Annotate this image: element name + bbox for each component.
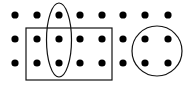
dot-r1-c4 <box>76 11 83 18</box>
dot-r2-c4 <box>76 35 83 42</box>
dot-r1-c6 <box>119 11 126 18</box>
dot-diagram <box>0 0 194 88</box>
dot-r2-c8 <box>164 35 171 42</box>
dot-r3-c5 <box>98 59 105 66</box>
dot-r3-c7 <box>141 59 148 66</box>
dot-r2-c6 <box>119 35 126 42</box>
dot-grid <box>11 11 171 66</box>
dot-r2-c3 <box>55 35 62 42</box>
dot-r3-c6 <box>119 59 126 66</box>
dot-r1-c1 <box>11 11 18 18</box>
dot-r1-c2 <box>33 11 40 18</box>
dot-r3-c8 <box>164 59 171 66</box>
dot-r3-c3 <box>55 59 62 66</box>
dot-r3-c2 <box>33 59 40 66</box>
dot-r2-c7 <box>141 35 148 42</box>
dot-r2-c1 <box>11 35 18 42</box>
circle-right-group <box>132 26 182 76</box>
dot-r1-c8 <box>164 11 171 18</box>
dot-r1-c3 <box>55 11 62 18</box>
dot-r3-c1 <box>11 59 18 66</box>
dot-r1-c5 <box>98 11 105 18</box>
dot-r2-c2 <box>33 35 40 42</box>
dot-r1-c7 <box>141 11 148 18</box>
dot-r2-c5 <box>98 35 105 42</box>
rectangle-rows-2-3 <box>26 28 112 80</box>
dot-r3-c4 <box>76 59 83 66</box>
